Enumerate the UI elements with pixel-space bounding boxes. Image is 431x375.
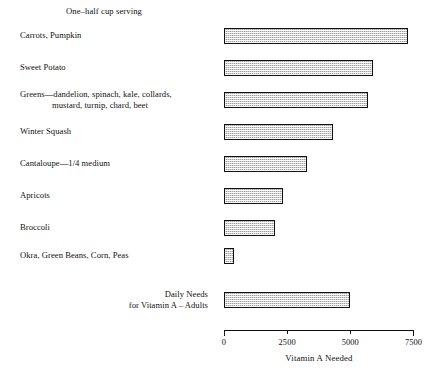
x-axis-title: Vitamin A Needed xyxy=(224,353,414,363)
x-tick-label-5000: 5000 xyxy=(330,338,370,347)
vitamin-a-bar-chart: One–half cup serving Carrots, PumpkinSwe… xyxy=(0,0,431,375)
x-axis xyxy=(0,0,431,375)
x-tick-label-0: 0 xyxy=(204,338,244,347)
x-tick-label-2500: 2500 xyxy=(267,338,307,347)
x-tick-label-7500: 7500 xyxy=(394,338,431,347)
